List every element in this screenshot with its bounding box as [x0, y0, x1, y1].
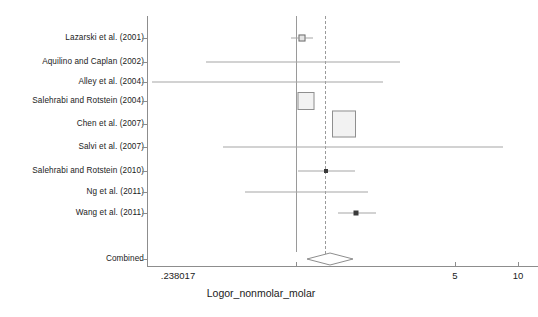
study-label-aquilino-2002: Aquilino and Caplan (2002) [42, 58, 144, 66]
x-axis-title-text: Logor_nonmolar_molar [207, 287, 316, 299]
marker-chen-2007 [332, 111, 356, 138]
ci-line-salvi-2007 [223, 147, 503, 148]
x-tick-5 [455, 262, 456, 267]
y-tick-lazarski-2001 [142, 38, 147, 39]
y-tick-wang-2011 [142, 213, 147, 214]
y-tick-chen-2007 [142, 124, 147, 125]
x-tick-label-min: .238017 [161, 271, 195, 281]
study-label-chen-2007: Chen et al. (2007) [77, 120, 144, 128]
combined-summary-diamond [306, 251, 354, 267]
study-label-salehrabi-2010: Salehrabi and Rotstein (2010) [32, 167, 144, 175]
y-tick-alley-2004 [142, 82, 147, 83]
x-tick-label-10: 10 [513, 271, 524, 281]
study-label-lazarski-2001: Lazarski et al. (2001) [65, 34, 144, 42]
marker-salehrabi-2010 [324, 169, 328, 173]
ci-line-alley-2004 [152, 82, 383, 83]
study-label-salvi-2007: Salvi et al. (2007) [78, 143, 144, 151]
marker-wang-2011 [354, 211, 359, 216]
y-tick-ng-2011 [142, 192, 147, 193]
x-tick-mid [296, 262, 297, 267]
study-label-ng-2011: Ng et al. (2011) [87, 188, 144, 196]
study-label-wang-2011: Wang et al. (2011) [76, 209, 144, 217]
null-reference-line [296, 16, 297, 252]
y-tick-combined [142, 259, 147, 260]
ci-line-aquilino-2002 [206, 62, 400, 63]
pooled-reference-line [325, 16, 326, 254]
marker-salehrabi-2004 [298, 92, 315, 110]
study-label-combined: Combined [106, 255, 144, 263]
y-tick-aquilino-2002 [142, 62, 147, 63]
forest-plot: Lazarski et al. (2001) Aquilino and Capl… [0, 0, 538, 317]
x-tick-10 [518, 262, 519, 267]
ci-line-ng-2011 [245, 192, 368, 193]
study-label-alley-2004: Alley et al. (2004) [78, 78, 144, 86]
x-axis-title: Logor_nonmolar_molar [0, 288, 538, 299]
x-tick-label-5: 5 [452, 271, 457, 281]
y-axis-spine [147, 16, 148, 267]
y-tick-salvi-2007 [142, 147, 147, 148]
y-tick-salehrabi-2004 [142, 101, 147, 102]
marker-lazarski-2001 [299, 35, 306, 42]
x-tick-min [147, 262, 148, 267]
y-tick-salehrabi-2010 [142, 171, 147, 172]
study-label-column: Lazarski et al. (2001) Aquilino and Capl… [0, 0, 144, 317]
study-label-salehrabi-2004: Salehrabi and Rotstein (2004) [32, 97, 144, 105]
